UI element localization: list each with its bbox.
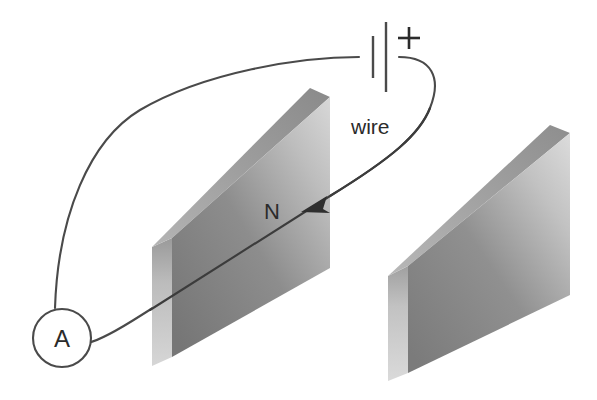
left-plate <box>152 88 330 366</box>
physics-diagram-figure: A wire N <box>0 0 597 400</box>
ammeter-label: A <box>54 325 70 352</box>
diagram-canvas: A wire N <box>0 0 597 400</box>
battery-symbol <box>373 22 420 92</box>
right-plate-front-face <box>408 133 570 373</box>
ammeter-symbol: A <box>33 309 91 367</box>
left-plate-label: N <box>264 199 280 224</box>
right-plate <box>388 125 570 381</box>
wire-label: wire <box>350 115 390 138</box>
right-plate-side-edge <box>388 266 408 381</box>
left-plate-front-face <box>172 97 330 357</box>
